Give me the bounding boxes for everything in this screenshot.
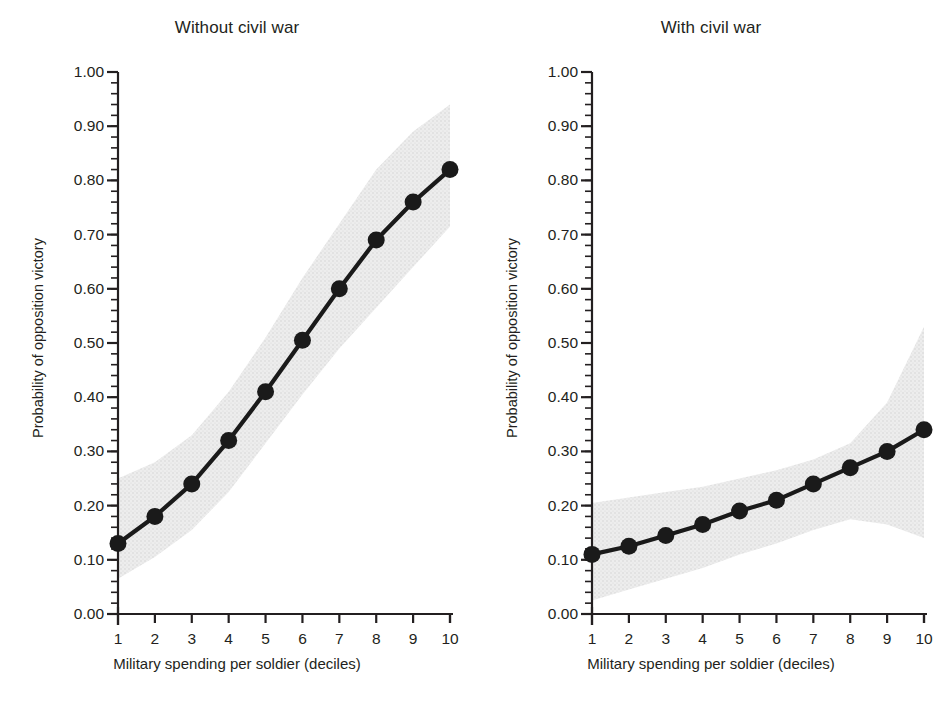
- y-tick-label: 0.00: [28, 605, 104, 623]
- data-point-marker: [405, 194, 422, 211]
- y-tick-label: 1.00: [28, 63, 104, 81]
- y-tick-label: 0.60: [502, 280, 578, 298]
- x-tick-label: 6: [298, 630, 307, 648]
- data-point-marker: [731, 503, 748, 520]
- x-tick-label: 10: [915, 630, 932, 648]
- data-point-marker: [842, 459, 859, 476]
- data-point-marker: [331, 280, 348, 297]
- y-tick-label: 0.30: [502, 442, 578, 460]
- x-tick-label: 5: [735, 630, 744, 648]
- x-tick-label: 8: [846, 630, 855, 648]
- x-tick-label: 2: [151, 630, 160, 648]
- y-tick-label: 0.40: [502, 388, 578, 406]
- y-tick-label: 0.20: [28, 497, 104, 515]
- y-tick-label: 0.10: [28, 551, 104, 569]
- x-tick-label: 6: [772, 630, 781, 648]
- data-point-marker: [916, 421, 933, 438]
- y-tick-label: 0.90: [502, 117, 578, 135]
- data-point-marker: [584, 546, 601, 563]
- x-tick-label: 9: [409, 630, 418, 648]
- confidence-band: [592, 327, 924, 601]
- y-tick-label: 0.80: [28, 171, 104, 189]
- data-point-marker: [257, 383, 274, 400]
- data-point-marker: [110, 535, 127, 552]
- data-point-marker: [183, 475, 200, 492]
- x-tick-label: 9: [883, 630, 892, 648]
- y-tick-label: 0.30: [28, 442, 104, 460]
- x-axis-label: Military spending per soldier (deciles): [0, 655, 474, 672]
- two-panel-figure: Without civil war Probability of opposit…: [0, 0, 948, 711]
- y-tick-label: 0.70: [502, 226, 578, 244]
- data-point-marker: [879, 443, 896, 460]
- x-tick-label: 10: [441, 630, 458, 648]
- x-tick-label: 8: [372, 630, 381, 648]
- data-point-marker: [294, 332, 311, 349]
- y-tick-label: 0.90: [28, 117, 104, 135]
- data-point-marker: [442, 161, 459, 178]
- y-tick-label: 0.20: [502, 497, 578, 515]
- x-tick-label: 1: [114, 630, 123, 648]
- data-point-marker: [220, 432, 237, 449]
- x-tick-label: 4: [698, 630, 707, 648]
- y-tick-label: 0.00: [502, 605, 578, 623]
- data-point-marker: [657, 527, 674, 544]
- y-tick-label: 0.10: [502, 551, 578, 569]
- x-tick-label: 5: [261, 630, 270, 648]
- x-tick-label: 4: [224, 630, 233, 648]
- data-point-marker: [368, 232, 385, 249]
- data-point-marker: [146, 508, 163, 525]
- data-point-marker: [620, 538, 637, 555]
- x-tick-label: 3: [187, 630, 196, 648]
- data-point-marker: [694, 516, 711, 533]
- y-tick-label: 0.40: [28, 388, 104, 406]
- y-tick-label: 1.00: [502, 63, 578, 81]
- panel-with-civil-war: With civil war Probability of opposition…: [474, 0, 948, 711]
- panel-without-civil-war: Without civil war Probability of opposit…: [0, 0, 474, 711]
- x-tick-label: 3: [661, 630, 670, 648]
- y-tick-label: 0.50: [28, 334, 104, 352]
- x-axis-label: Military spending per soldier (deciles): [474, 655, 948, 672]
- y-tick-label: 0.50: [502, 334, 578, 352]
- x-tick-label: 1: [588, 630, 597, 648]
- y-tick-label: 0.70: [28, 226, 104, 244]
- data-point-marker: [768, 492, 785, 509]
- x-tick-label: 2: [625, 630, 634, 648]
- x-tick-label: 7: [809, 630, 818, 648]
- data-point-marker: [805, 475, 822, 492]
- y-tick-label: 0.60: [28, 280, 104, 298]
- x-tick-label: 7: [335, 630, 344, 648]
- y-tick-label: 0.80: [502, 171, 578, 189]
